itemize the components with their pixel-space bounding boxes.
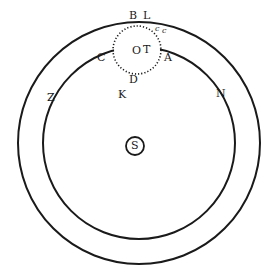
label-k: K (118, 89, 126, 100)
label-c: C (97, 52, 105, 63)
orbit-diagram: B L c c O T A C D K Z N S (0, 0, 272, 274)
label-b: B (129, 10, 137, 21)
label-n: N (216, 88, 226, 99)
label-c-small-2: c (162, 27, 166, 35)
label-l: L (143, 10, 150, 21)
diagram-drawing (0, 0, 272, 274)
label-c-small-1: c (155, 25, 159, 33)
inner-orbit (43, 47, 235, 239)
label-z: Z (47, 92, 55, 103)
label-d: D (129, 74, 138, 85)
label-a: A (164, 52, 172, 63)
label-t: T (143, 44, 150, 55)
label-o: O (132, 45, 141, 56)
label-s: S (131, 140, 139, 151)
